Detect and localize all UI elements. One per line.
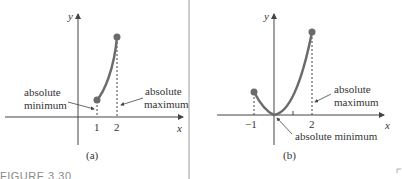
endpoint-max-b	[309, 29, 316, 36]
tick-label-2-b: 2	[309, 118, 315, 130]
panel-b: y x −1 2 absolute maximum absolute minim…	[217, 10, 390, 162]
min-arrow-b	[277, 118, 292, 134]
endpoint-min-a	[94, 97, 101, 104]
curve-b	[254, 32, 312, 115]
max-label-line1-a: absolute	[145, 85, 182, 97]
min-arrow-a	[68, 102, 94, 109]
endpoint-left-b	[251, 89, 258, 96]
corner-mark	[397, 169, 401, 173]
max-label-line2-a: maximum	[144, 98, 189, 110]
max-arrow-a	[121, 98, 143, 105]
x-axis-label-a: x	[176, 122, 182, 134]
max-label-line1-b: absolute	[334, 83, 371, 95]
x-axis-label-b: x	[384, 119, 390, 131]
panel-label-a: (a)	[86, 149, 99, 162]
min-label-line1-a: absolute	[24, 86, 61, 98]
y-axis-label-b: y	[263, 10, 269, 22]
max-label-line2-b: maximum	[334, 96, 379, 108]
min-label-line2-a: minimum	[24, 99, 67, 111]
panel-label-b: (b)	[283, 149, 296, 162]
tick-label-neg1: −1	[245, 118, 257, 130]
panel-a: y x 1 2 absolute minimum absolute maximu…	[5, 10, 189, 162]
curve-a	[97, 37, 117, 100]
max-arrow-b	[315, 94, 331, 102]
endpoint-max-a	[114, 34, 121, 41]
figure-caption: FIGURE 3.30	[0, 166, 72, 179]
figure-canvas: y x 1 2 absolute minimum absolute maximu…	[0, 0, 402, 179]
tick-label-1: 1	[94, 121, 100, 133]
y-axis-label-a: y	[67, 10, 73, 22]
tick-label-2: 2	[114, 121, 120, 133]
min-label-b: absolute minimum	[295, 130, 378, 142]
